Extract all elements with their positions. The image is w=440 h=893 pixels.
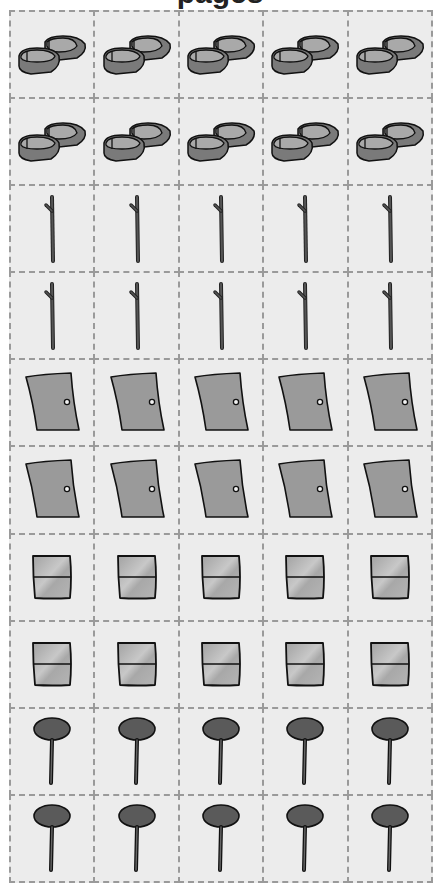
door-icon [361,459,419,521]
grid-cell[interactable] [178,794,264,883]
grid-cell[interactable] [9,271,95,360]
lollipop-icon [283,803,327,873]
grid-cell[interactable] [9,794,95,883]
stick-icon [37,193,67,265]
grid-cell[interactable] [93,794,179,883]
grid-cell[interactable] [9,10,95,99]
grid-cell[interactable] [347,794,433,883]
grid-cell[interactable] [262,533,348,622]
lollipop-icon [30,803,74,873]
box-icon [283,640,327,688]
grid-cell[interactable] [347,271,433,360]
stick-icon [37,280,67,352]
grid-cell[interactable] [9,533,95,622]
shoes-icon [268,32,342,78]
grid-cell[interactable] [178,533,264,622]
grid-cell[interactable] [9,358,95,447]
lollipop-icon [115,716,159,786]
box-icon [199,640,243,688]
grid-cell[interactable] [178,184,264,273]
shoes-icon [353,32,427,78]
shoes-icon [15,119,89,165]
grid-cell[interactable] [178,358,264,447]
card-grid [10,11,432,882]
grid-cell[interactable] [93,271,179,360]
box-icon [115,640,159,688]
box-icon [115,553,159,601]
stick-icon [206,193,236,265]
grid-cell[interactable] [93,445,179,534]
grid-cell[interactable] [347,97,433,186]
grid-cell[interactable] [93,707,179,796]
grid-cell[interactable] [93,358,179,447]
shoes-icon [100,119,174,165]
door-icon [23,372,81,434]
grid-cell[interactable] [262,10,348,99]
grid-cell[interactable] [178,10,264,99]
grid-cell[interactable] [93,533,179,622]
lollipop-icon [199,716,243,786]
stick-icon [290,193,320,265]
grid-cell[interactable] [178,707,264,796]
grid-cell[interactable] [9,184,95,273]
lollipop-icon [199,803,243,873]
door-icon [276,372,334,434]
grid-cell[interactable] [178,445,264,534]
grid-cell[interactable] [347,707,433,796]
grid-cell[interactable] [262,358,348,447]
lollipop-icon [115,803,159,873]
grid-cell[interactable] [178,271,264,360]
box-icon [30,640,74,688]
door-icon [276,459,334,521]
grid-cell[interactable] [347,184,433,273]
grid-cell[interactable] [178,97,264,186]
grid-cell[interactable] [347,358,433,447]
shoes-icon [15,32,89,78]
grid-cell[interactable] [9,97,95,186]
grid-cell[interactable] [93,620,179,709]
shoes-icon [184,32,258,78]
grid-cell[interactable] [347,620,433,709]
shoes-icon [268,119,342,165]
stick-icon [375,193,405,265]
grid-cell[interactable] [262,445,348,534]
grid-cell[interactable] [262,794,348,883]
stick-icon [290,280,320,352]
grid-cell[interactable] [347,533,433,622]
stick-icon [375,280,405,352]
door-icon [108,459,166,521]
grid-cell[interactable] [262,271,348,360]
door-icon [23,459,81,521]
grid-cell[interactable] [347,445,433,534]
door-icon [192,459,250,521]
grid-cell[interactable] [93,184,179,273]
grid-cell[interactable] [93,10,179,99]
grid-cell[interactable] [262,184,348,273]
shoes-icon [100,32,174,78]
grid-cell[interactable] [9,445,95,534]
grid-cell[interactable] [178,620,264,709]
lollipop-icon [283,716,327,786]
grid-cell[interactable] [262,620,348,709]
grid-cell[interactable] [9,707,95,796]
box-icon [199,553,243,601]
box-icon [368,640,412,688]
door-icon [108,372,166,434]
door-icon [192,372,250,434]
stick-icon [122,193,152,265]
lollipop-icon [30,716,74,786]
door-icon [361,372,419,434]
shoes-icon [184,119,258,165]
grid-cell[interactable] [262,707,348,796]
grid-cell[interactable] [93,97,179,186]
grid-cell[interactable] [262,97,348,186]
page-title: pages [0,0,440,8]
shoes-icon [353,119,427,165]
stick-icon [122,280,152,352]
grid-cell[interactable] [9,620,95,709]
stick-icon [206,280,236,352]
lollipop-icon [368,716,412,786]
box-icon [368,553,412,601]
box-icon [30,553,74,601]
grid-cell[interactable] [347,10,433,99]
